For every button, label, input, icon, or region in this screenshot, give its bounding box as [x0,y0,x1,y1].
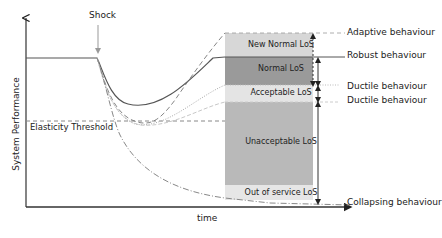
ductile-curve-1 [97,58,225,125]
behaviour-label-collapsing: Collapsing behaviour [347,197,442,207]
resilience-diagram: Shock System Performance time Elasticity… [0,0,442,238]
behaviour-label-adaptive: Adaptive behaviour [347,27,435,37]
y-axis-label: System Performance [11,74,21,174]
adaptive-curve [97,33,225,123]
shock-label: Shock [89,10,116,20]
x-axis-label: time [197,213,217,223]
band-label-out-of-service: Out of service LoS [239,188,323,197]
band-label-unacceptable: Unacceptable LoS [239,137,323,146]
behaviour-label-robust: Robust behaviour [347,50,426,60]
band-label-acceptable: Acceptable LoS [239,88,323,97]
behaviour-label-ductile-1: Ductile behaviour [347,81,427,91]
behaviour-label-ductile-2: Ductile behaviour [347,95,427,105]
band-label-new-normal: New Normal LoS [239,40,323,49]
level-of-service-bands [225,33,313,200]
ductile-curve-2 [97,58,225,125]
elasticity-threshold-label: Elasticity Threshold [30,122,113,132]
robust-curve [26,57,225,105]
band-label-normal: Normal LoS [239,64,323,73]
